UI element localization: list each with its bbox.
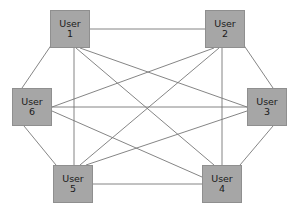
node-label-number: 4 (219, 184, 225, 194)
node-label-number: 1 (67, 29, 73, 39)
node-user1[interactable]: User1 (50, 10, 90, 48)
edge-user2-user6 (52, 48, 214, 107)
node-user2[interactable]: User2 (205, 10, 245, 48)
node-user3[interactable]: User3 (247, 88, 287, 126)
node-user6[interactable]: User6 (12, 88, 52, 126)
edges-group (22, 29, 273, 184)
edge-user2-user5 (80, 48, 219, 165)
node-user5[interactable]: User5 (53, 165, 93, 203)
node-label-number: 5 (70, 184, 76, 194)
node-label-number: 2 (222, 29, 228, 39)
edge-user3-user5 (86, 111, 247, 165)
edge-user5-user6 (24, 126, 56, 165)
edge-user1-user6 (22, 44, 52, 88)
network-diagram: User1User2User3User4User5User6 (0, 0, 298, 213)
edge-user3-user4 (240, 126, 273, 165)
node-user4[interactable]: User4 (202, 165, 242, 203)
edge-user1-user4 (76, 48, 214, 165)
node-label-number: 3 (264, 107, 270, 117)
node-label-number: 6 (29, 107, 35, 117)
edge-user2-user3 (243, 44, 273, 88)
